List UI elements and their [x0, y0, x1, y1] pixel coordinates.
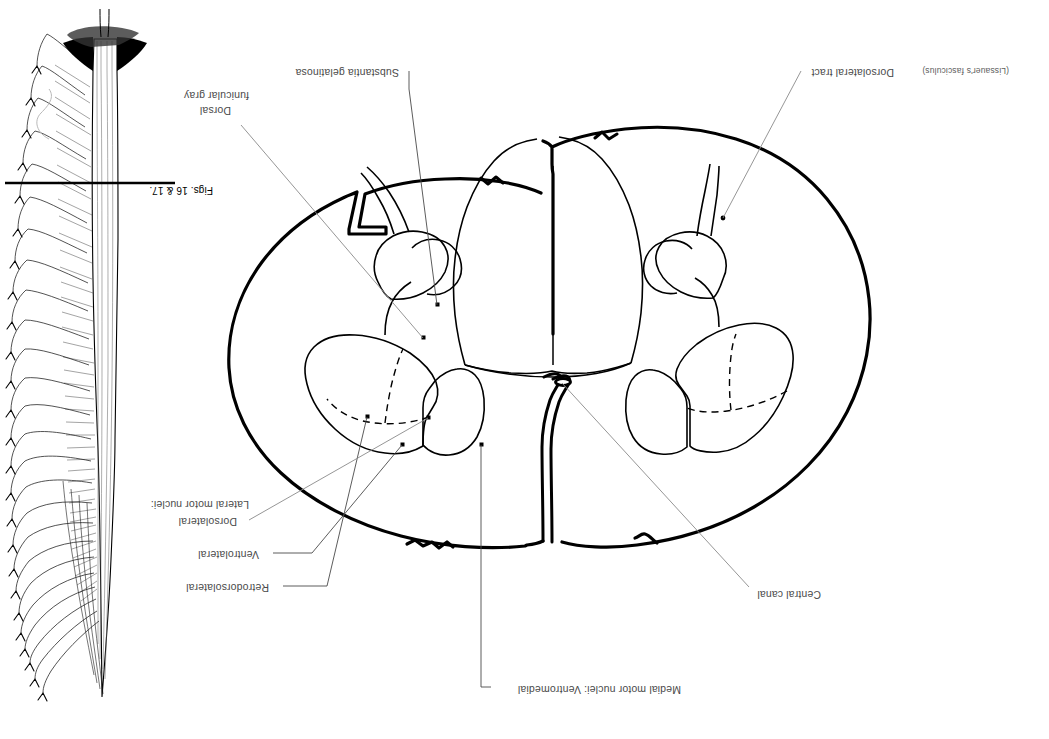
free-root-curve — [37, 89, 52, 139]
dorsolateral-tract-right — [361, 173, 394, 234]
leader-substantia-gelatinosa — [409, 71, 437, 305]
cross-section-group — [229, 127, 870, 548]
cord-outline-ridges-right — [407, 540, 453, 548]
label-dorsal-funicular-gray-line1: Dorsal — [200, 104, 231, 117]
nerve-root — [11, 456, 91, 493]
anterior-median-fissure — [551, 376, 570, 542]
label-medial-motor-nuclei: Medial motor nuclei: Ventromedial — [518, 683, 681, 696]
label-central-canal: Central canal — [757, 588, 821, 601]
leader-central-canal — [562, 383, 749, 587]
cord-outline-notch-left — [635, 534, 657, 543]
nerve-root — [15, 229, 87, 261]
label-dorsolateral: Dorsolateral — [179, 515, 237, 528]
cord-outline-ridges-bottom — [481, 132, 617, 184]
nerve-root — [11, 432, 91, 466]
gray-right-dashed-2 — [385, 349, 403, 423]
nerve-root — [30, 599, 96, 663]
gray-central-left-edge — [559, 137, 643, 363]
leader-dorsolateral-tract — [723, 71, 801, 218]
nerve-root — [23, 131, 86, 163]
cord-shaft-outline — [92, 39, 118, 697]
gray-dorsal-horn-left — [656, 232, 726, 298]
gray-left-bridge — [695, 278, 719, 327]
cord-root-hatching — [55, 65, 97, 601]
label-figs-reference: Figs. 16 & 17. — [149, 184, 213, 197]
nerve-root — [13, 502, 92, 545]
dorsolateral-tract-left-b — [697, 164, 710, 236]
cord-outline-right — [229, 179, 543, 548]
cord-root-convergence — [63, 481, 103, 694]
gray-right-dashed-1 — [327, 399, 429, 424]
leader-ventrolateral — [273, 445, 402, 553]
anchor-dot-ventromedial — [480, 443, 484, 447]
anatomical-plate: Medial motor nuclei: Ventromedial Centra… — [0, 0, 1049, 739]
leader-dorsal-funicular-gray — [241, 125, 423, 338]
leader-lines — [241, 71, 801, 687]
gray-ventral-horn-right — [305, 335, 438, 454]
gray-central-right-edge — [454, 139, 538, 365]
spinal-cord-drawing — [0, 0, 1049, 739]
nerve-root — [11, 349, 89, 381]
gray-left-dashed-1 — [687, 391, 787, 412]
gray-sg-left-lobe — [644, 240, 692, 293]
figure-page: Medial motor nuclei: Ventromedial Centra… — [0, 0, 1049, 739]
nerve-root-tips — [6, 66, 47, 701]
dorsolateral-tract-left — [711, 166, 719, 236]
nerve-root — [11, 378, 90, 410]
cord-column-figure — [5, 9, 175, 701]
label-dorsal-funicular-gray-line2: funicular gray — [184, 89, 249, 102]
gray-dorsal-horn-right — [374, 231, 448, 299]
gray-left-dashed-2 — [730, 334, 737, 410]
label-substantia-gelatinosa: Substantia gelatinosa — [295, 66, 399, 79]
label-lateral-motor-nuclei: Lateral motor nuclei: — [151, 498, 249, 511]
gray-medial-column-right — [423, 369, 484, 455]
nerve-root — [35, 611, 97, 679]
label-retrodorsolateral: Retrodorsolateral — [186, 581, 269, 594]
label-dorsolateral-tract-parenthetical: (Lissauer's fasciculus) — [922, 64, 1009, 77]
anchor-dot-substantia-gelatinosa — [436, 303, 440, 307]
anchor-dot-retrodorsolateral — [366, 415, 370, 419]
label-ventrolateral: Ventrolateral — [198, 548, 259, 561]
nerve-root — [11, 320, 89, 352]
nerve-roots — [11, 34, 99, 693]
dorsolateral-tract-right-b — [367, 167, 409, 232]
nerve-root — [11, 405, 90, 438]
nerve-root — [12, 290, 88, 322]
gray-ventral-horn-left — [676, 323, 793, 452]
label-dorsolateral-tract: Dorsolateral tract — [811, 66, 894, 79]
